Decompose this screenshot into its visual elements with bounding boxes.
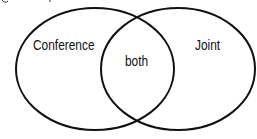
intersection-label: both (125, 53, 148, 69)
joint-set-ellipse (101, 8, 255, 130)
conference-label: Conference (33, 37, 95, 53)
conference-set-ellipse (16, 8, 174, 130)
joint-label: Joint (195, 37, 220, 53)
clipped-top-text-fragment (2, 0, 50, 2)
venn-diagram (0, 0, 257, 139)
